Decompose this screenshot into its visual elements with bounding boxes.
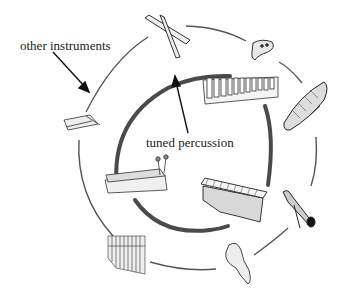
claves-icon [145, 15, 190, 58]
arrow-other-instruments [53, 52, 89, 92]
guiro-icon [284, 82, 327, 130]
label-other-instruments: other instruments [20, 38, 111, 54]
arrow-tuned-percussion [172, 76, 188, 133]
label-tuned-percussion: tuned percussion [146, 135, 234, 151]
glockenspiel-icon [203, 77, 278, 104]
shaker-icon [283, 191, 315, 228]
metallophone-icon [105, 155, 168, 193]
xylophone-icon [201, 178, 267, 222]
instrument-diagram: other instruments tuned percussion [0, 0, 352, 305]
zither-icon [64, 115, 100, 130]
gourd-icon [226, 243, 251, 284]
ocarina-icon [252, 40, 274, 60]
pan-pipes-icon [108, 236, 145, 274]
